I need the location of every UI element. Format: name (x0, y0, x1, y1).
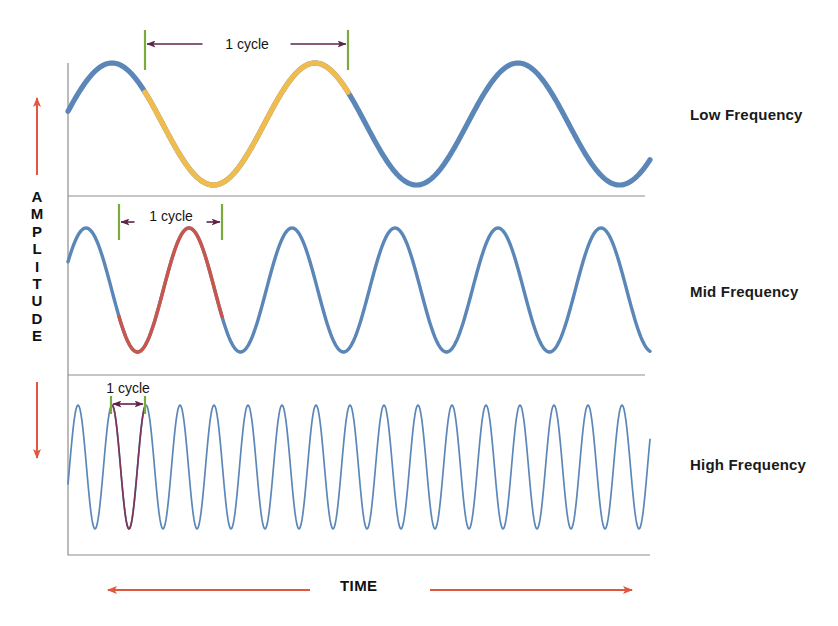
waveform-low (68, 63, 650, 185)
legend-label-high-frequency: High Frequency (690, 456, 806, 473)
frequency-diagram: AMPLITUDE TIME Low Frequency Mid Frequen… (0, 0, 838, 626)
amplitude-letter: A (22, 188, 52, 205)
highlighted-cycle-high (111, 405, 145, 529)
waveform-group (68, 63, 650, 529)
highlighted-cycle-low (145, 63, 348, 185)
legend-label-mid-frequency: Mid Frequency (690, 283, 798, 300)
amplitude-letter: T (22, 275, 52, 292)
cycle-annotation-mid: 1 cycle (146, 208, 196, 224)
waveform-mid (68, 228, 650, 352)
highlighted-cycle-mid (119, 228, 222, 352)
amplitude-letter: P (22, 223, 52, 240)
amplitude-axis-label: AMPLITUDE (22, 188, 52, 345)
cycle-annotation-low: 1 cycle (222, 36, 272, 52)
amplitude-letter: U (22, 292, 52, 309)
amplitude-letter: D (22, 310, 52, 327)
cycle-annotation-high: 1 cycle (103, 380, 153, 396)
amplitude-letter: E (22, 327, 52, 344)
waveform-high (68, 405, 650, 529)
time-axis-label: TIME (340, 577, 377, 594)
amplitude-letter: L (22, 240, 52, 257)
amplitude-letter: I (22, 258, 52, 275)
waveform-canvas (0, 0, 838, 626)
legend-label-low-frequency: Low Frequency (690, 106, 803, 123)
amplitude-letter: M (22, 205, 52, 222)
